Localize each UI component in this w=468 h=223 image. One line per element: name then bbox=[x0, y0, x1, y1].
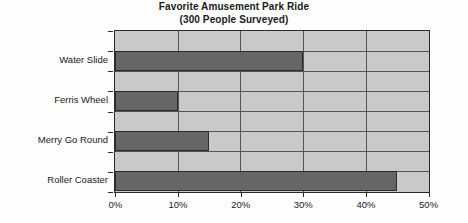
y-tick-mark bbox=[108, 112, 113, 113]
x-tick-mark bbox=[241, 193, 242, 197]
x-tick-mark bbox=[178, 193, 179, 197]
x-tick-label: 50% bbox=[419, 199, 438, 210]
y-tick-mark bbox=[108, 132, 113, 133]
chart-title: Favorite Amusement Park Ride bbox=[0, 1, 468, 14]
y-tick-mark bbox=[108, 31, 113, 32]
y-tick-mark bbox=[108, 192, 113, 193]
y-tick-mark bbox=[108, 51, 113, 52]
x-tick-mark bbox=[303, 193, 304, 197]
y-axis-ticks bbox=[0, 30, 114, 193]
bar bbox=[115, 131, 209, 151]
gridline-horizontal bbox=[115, 111, 429, 112]
chart-subtitle: (300 People Surveyed) bbox=[0, 14, 468, 27]
x-tick-label: 10% bbox=[169, 199, 188, 210]
bar bbox=[115, 51, 303, 71]
y-tick-mark bbox=[108, 152, 113, 153]
x-tick-label: 0% bbox=[109, 199, 123, 210]
x-tick-label: 20% bbox=[231, 199, 250, 210]
plot-area bbox=[114, 30, 430, 193]
x-axis: 0%10%20%30%40%50% bbox=[114, 193, 430, 219]
y-tick-mark bbox=[108, 91, 113, 92]
x-tick-label: 40% bbox=[356, 199, 375, 210]
y-tick-mark bbox=[108, 71, 113, 72]
bar bbox=[115, 171, 397, 191]
bar-chart: Favorite Amusement Park Ride (300 People… bbox=[0, 0, 468, 223]
x-tick-mark bbox=[366, 193, 367, 197]
gridline-horizontal bbox=[115, 151, 429, 152]
gridline-horizontal bbox=[115, 71, 429, 72]
x-tick-label: 30% bbox=[294, 199, 313, 210]
y-tick-mark bbox=[108, 172, 113, 173]
x-tick-mark bbox=[429, 193, 430, 197]
x-tick-mark bbox=[115, 193, 116, 197]
bar bbox=[115, 91, 178, 111]
